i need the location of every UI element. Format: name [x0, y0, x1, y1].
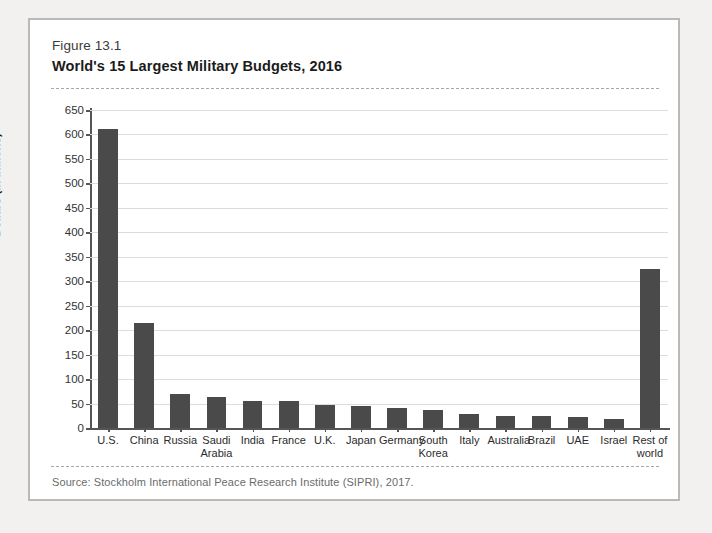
x-axis-tick-label: Russia — [162, 434, 198, 447]
y-axis-tick-mark — [86, 110, 90, 112]
gridline — [90, 159, 668, 160]
bar — [568, 417, 588, 428]
y-axis-tick-mark — [86, 281, 90, 283]
x-axis-tick-label: Australia — [487, 434, 523, 447]
bar — [604, 419, 624, 428]
bar — [459, 414, 479, 428]
y-axis-tick-mark — [86, 208, 90, 210]
y-axis-tick-label: 650 — [50, 104, 84, 116]
y-axis-tick-mark — [86, 355, 90, 357]
figure-box: Figure 13.1 World's 15 Largest Military … — [28, 18, 680, 501]
y-axis-tick-label: 400 — [50, 226, 84, 238]
y-axis-tick-label: 100 — [50, 373, 84, 385]
gridline — [90, 379, 668, 380]
x-axis-tick-mark — [289, 428, 291, 432]
y-axis-tick-mark — [86, 134, 90, 136]
x-axis-tick-mark — [397, 428, 399, 432]
x-axis-tick-label: U.K. — [307, 434, 343, 447]
x-axis-tick-mark — [578, 428, 580, 432]
bar — [315, 405, 335, 428]
y-axis-tick-label: 550 — [50, 153, 84, 165]
x-axis-tick-label: Japan — [343, 434, 379, 447]
y-axis-tick-mark — [86, 232, 90, 234]
y-axis-tick-label: 450 — [50, 202, 84, 214]
x-axis-tick-mark — [505, 428, 507, 432]
y-axis-tick-mark — [86, 379, 90, 381]
x-axis-tick-mark — [433, 428, 435, 432]
bar — [532, 416, 552, 428]
y-axis-tick-label: 500 — [50, 177, 84, 189]
y-axis-tick-mark — [86, 404, 90, 406]
bar — [243, 401, 263, 428]
bar — [134, 323, 154, 428]
bar — [496, 416, 516, 428]
plot-area — [90, 110, 668, 428]
x-axis-tick-label: Brazil — [524, 434, 560, 447]
x-axis-tick-label: Rest of world — [632, 434, 668, 460]
x-axis-tick-label: U.S. — [90, 434, 126, 447]
gridline — [90, 257, 668, 258]
gridline — [90, 306, 668, 307]
x-axis-line — [90, 428, 670, 430]
gridline — [90, 330, 668, 331]
divider-bottom — [51, 466, 659, 467]
y-axis-tick-mark — [86, 183, 90, 185]
gridline — [90, 232, 668, 233]
y-axis-tick-mark — [86, 306, 90, 308]
bar — [207, 397, 227, 428]
y-axis-tick-label: 600 — [50, 128, 84, 140]
bar — [279, 401, 299, 428]
x-axis-tick-mark — [216, 428, 218, 432]
y-axis-tick-label: 250 — [50, 300, 84, 312]
x-axis-tick-label: China — [126, 434, 162, 447]
bar — [387, 408, 407, 428]
bar — [351, 406, 371, 429]
x-axis-tick-label: Italy — [451, 434, 487, 447]
x-axis-tick-mark — [614, 428, 616, 432]
x-axis-tick-mark — [180, 428, 182, 432]
x-axis-tick-label: Israel — [596, 434, 632, 447]
bar — [640, 269, 660, 428]
y-axis-tick-mark — [86, 330, 90, 332]
gridline — [90, 208, 668, 209]
y-axis-tick-label: 200 — [50, 324, 84, 336]
x-axis-tick-mark — [650, 428, 652, 432]
y-axis-tick-label: 300 — [50, 275, 84, 287]
x-axis-tick-mark — [361, 428, 363, 432]
bar — [98, 129, 118, 428]
y-axis-tick-label: 0 — [50, 422, 84, 434]
y-axis-tick-label: 150 — [50, 349, 84, 361]
x-axis-tick-mark — [469, 428, 471, 432]
y-axis-tick-mark — [86, 428, 90, 430]
x-axis-tick-label: Germany — [379, 434, 415, 447]
x-axis-tick-label: India — [235, 434, 271, 447]
y-axis-tick-label: 50 — [50, 398, 84, 410]
x-axis-tick-mark — [542, 428, 544, 432]
x-axis-tick-mark — [144, 428, 146, 432]
x-axis-tick-label: France — [271, 434, 307, 447]
source-note: Source: Stockholm International Peace Re… — [52, 476, 414, 488]
bar-chart: 050100150200250300350400450500550600650 … — [30, 20, 682, 503]
gridline — [90, 355, 668, 356]
bar — [170, 394, 190, 428]
x-axis-tick-label: Saudi Arabia — [198, 434, 234, 460]
y-axis-tick-mark — [86, 159, 90, 161]
y-axis-tick-label: 350 — [50, 251, 84, 263]
x-axis-tick-mark — [108, 428, 110, 432]
x-axis-tick-label: South Korea — [415, 434, 451, 460]
gridline — [90, 281, 668, 282]
x-axis-tick-mark — [253, 428, 255, 432]
gridline — [90, 134, 668, 135]
x-axis-tick-mark — [325, 428, 327, 432]
page: Figure 13.1 World's 15 Largest Military … — [0, 0, 712, 533]
y-axis-tick-mark — [86, 257, 90, 259]
gridline — [90, 110, 668, 111]
bar — [423, 410, 443, 428]
gridline — [90, 183, 668, 184]
y-axis-title: Dollars (in billions) — [0, 133, 2, 237]
x-axis-tick-label: UAE — [560, 434, 596, 447]
